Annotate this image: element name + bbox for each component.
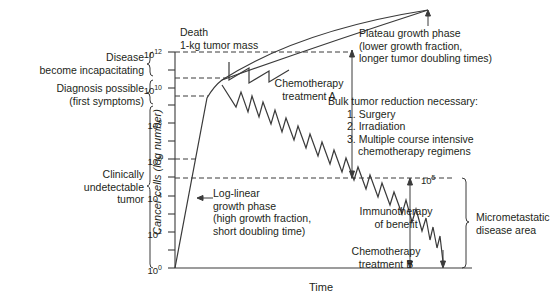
- label-death: Death 1-kg tumor mass: [180, 26, 258, 51]
- label-log-linear-phase: Log-linear growth phase (high growth fra…: [213, 187, 311, 237]
- label-micrometastatic: Micrometastatic disease area: [476, 211, 550, 236]
- label-chemo-b: Chemotherapy treatment B: [346, 245, 426, 270]
- label-bulk-reduction: Bulk tumor reduction necessary: 1. Surge…: [328, 95, 478, 158]
- y-tick-1e0: 100: [128, 263, 162, 276]
- y-axis-label: Cancer cells (log number): [151, 109, 163, 235]
- label-plateau-phase: Plateau growth phase (lower growth fract…: [359, 27, 492, 65]
- x-axis-label: Time: [309, 281, 333, 294]
- label-immunotherapy: Immunotherapy of benefit: [356, 205, 436, 230]
- label-clinically-undetectable: Clinically undetectable tumor: [20, 168, 144, 206]
- brace-micromet: [462, 178, 469, 268]
- ref-tick-1e5: 105: [421, 173, 443, 186]
- label-disease-incapacitating: Disease become incapacitating: [20, 51, 144, 76]
- label-diagnosis-possible: Diagnosis possible (first symptoms): [20, 82, 144, 107]
